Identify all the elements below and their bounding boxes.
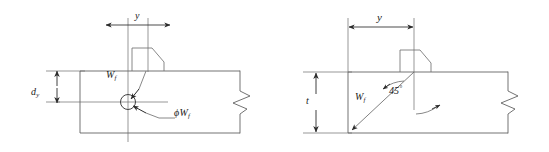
right-dimension-side-label: t <box>306 96 309 106</box>
right-leader-throat-label: Wf <box>355 92 365 104</box>
left-view-group <box>46 18 250 142</box>
left-dimension-top-label: y <box>135 11 139 21</box>
left-leader-lower <box>133 106 175 118</box>
right-view-group <box>303 18 518 133</box>
left-dimension-side <box>46 71 85 103</box>
left-leader-upper-label: Wf <box>106 70 116 82</box>
left-dimension-side-label: dy <box>31 87 39 99</box>
right-dimension-top-label: y <box>377 12 382 23</box>
figure-linework <box>0 0 549 152</box>
right-break-symbol <box>501 72 518 133</box>
left-break-symbol <box>233 71 250 133</box>
right-weld-bead-profile <box>400 50 431 72</box>
right-dimension-side <box>303 72 352 133</box>
right-angle-label: 45° <box>389 86 402 96</box>
weld-detail-figure: y dy Wf ϕWf y t Wf 45° <box>0 0 549 152</box>
left-leader-lower-label: ϕWf <box>174 108 190 120</box>
right-plate-outline <box>348 72 508 133</box>
left-leader-upper <box>131 71 146 99</box>
